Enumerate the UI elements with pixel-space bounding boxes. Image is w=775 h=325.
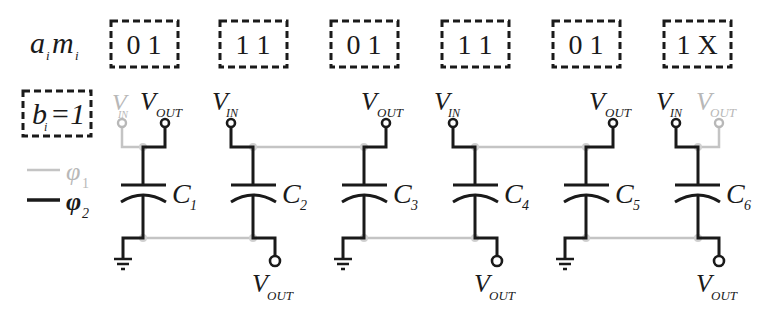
svg-text:OUT: OUT	[267, 288, 294, 303]
svg-text:IN: IN	[225, 106, 239, 120]
svg-text:6: 6	[744, 198, 751, 213]
svg-text:i: i	[44, 120, 47, 134]
bit-box-5: 0 1	[553, 21, 620, 67]
svg-text:4: 4	[522, 198, 529, 213]
top-terminal-labels: V IN V OUT V IN V OUT V IN V OUT V IN V …	[112, 87, 737, 120]
capacitor-cell-6	[676, 126, 719, 256]
svg-text:IN: IN	[117, 109, 129, 120]
svg-text:OUT: OUT	[710, 105, 737, 120]
svg-text:0 1: 0 1	[127, 29, 162, 60]
svg-text:i: i	[46, 48, 50, 63]
capacitor-cell-2	[231, 126, 275, 256]
bit-box-4: 1 1	[442, 21, 509, 67]
row-label-aimi: a i m i	[30, 26, 79, 63]
ground-icon-1	[114, 259, 132, 269]
bit-box-2: 1 1	[220, 21, 287, 67]
svg-text:C: C	[615, 178, 634, 209]
legend: φ 1 φ 2	[27, 157, 89, 221]
bottom-terminal-labels: V OUT V OUT V OUT	[252, 269, 738, 303]
svg-text:1: 1	[82, 176, 89, 191]
svg-text:5: 5	[633, 198, 640, 213]
vout-terminal-6	[715, 119, 723, 127]
svg-text:OUT: OUT	[489, 288, 516, 303]
vout-terminal-5	[609, 119, 617, 127]
b-value-box: b i =1	[23, 91, 91, 136]
vin-terminal-1	[118, 119, 126, 127]
svg-text:1 1: 1 1	[458, 29, 493, 60]
svg-text:0 1: 0 1	[569, 29, 604, 60]
svg-text:1 1: 1 1	[236, 29, 271, 60]
svg-text:m: m	[52, 26, 74, 59]
svg-text:OUT: OUT	[156, 105, 183, 120]
svg-text:3: 3	[410, 198, 418, 213]
svg-text:1 X: 1 X	[676, 29, 717, 60]
svg-text:0 1: 0 1	[347, 29, 382, 60]
svg-text:C: C	[726, 178, 745, 209]
vout-bottom-terminal-2	[270, 256, 280, 266]
svg-text:a: a	[30, 26, 45, 59]
svg-text:2: 2	[82, 206, 89, 221]
ground-icon-5	[556, 259, 574, 269]
svg-text:C: C	[393, 178, 412, 209]
svg-text:IN: IN	[447, 106, 461, 120]
bit-box-6: 1 X	[664, 21, 731, 67]
switched-capacitor-diagram: a i m i b i =1 φ 1 φ 2 0 1 1 1 0 1 1 1 0…	[0, 0, 775, 325]
svg-text:=1: =1	[50, 97, 85, 130]
capacitor-cell-4	[453, 126, 497, 256]
bit-box-1: 0 1	[111, 21, 178, 67]
svg-text:φ: φ	[66, 187, 81, 216]
vin-terminal-6	[672, 119, 680, 127]
ground-icons	[114, 259, 574, 269]
svg-text:1: 1	[190, 198, 197, 213]
svg-text:OUT: OUT	[605, 105, 632, 120]
vin-terminal-2	[227, 119, 235, 127]
svg-text:C: C	[282, 178, 301, 209]
svg-text:OUT: OUT	[711, 288, 738, 303]
vout-terminal-3	[382, 119, 390, 127]
vin-terminal-4	[449, 119, 457, 127]
vout-bottom-terminal-4	[492, 256, 502, 266]
top-terminals	[118, 119, 723, 127]
ground-icon-3	[334, 259, 352, 269]
svg-text:C: C	[504, 178, 523, 209]
svg-text:OUT: OUT	[377, 105, 404, 120]
svg-text:C: C	[172, 178, 191, 209]
vout-bottom-terminal-6	[714, 256, 724, 266]
svg-text:2: 2	[300, 198, 307, 213]
vout-terminal-1	[161, 119, 169, 127]
svg-text:IN: IN	[669, 106, 683, 120]
svg-text:i: i	[75, 48, 79, 63]
bit-box-3: 0 1	[331, 21, 398, 67]
svg-text:φ: φ	[66, 157, 80, 186]
